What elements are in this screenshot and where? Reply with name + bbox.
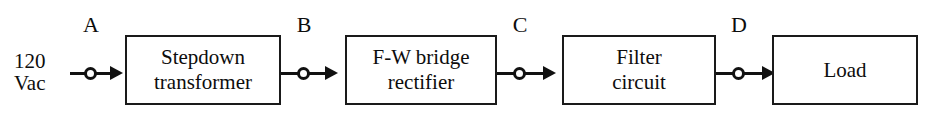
block-load-label: Load xyxy=(817,58,872,83)
arrowhead-into-transformer-icon xyxy=(110,66,123,80)
source-voltage-unit: Vac xyxy=(14,72,76,94)
node-b-label: B xyxy=(291,14,317,36)
block-filter-circuit-label: Filter circuit xyxy=(606,45,672,95)
arrowhead-into-rectifier-icon xyxy=(325,66,338,80)
block-filter-circuit: Filter circuit xyxy=(562,35,716,105)
wire-node-b-to-rectifier xyxy=(308,72,326,75)
block-fw-bridge-rectifier: F-W bridge rectifier xyxy=(345,35,497,105)
block-diagram: 120 Vac A Stepdown transformer B F-W bri… xyxy=(0,0,936,123)
block-fw-bridge-rectifier-label: F-W bridge rectifier xyxy=(366,45,475,95)
wire-node-a-to-transformer xyxy=(95,72,111,75)
block-stepdown-transformer: Stepdown transformer xyxy=(125,35,281,105)
ac-source-label: 120 Vac xyxy=(14,50,76,94)
source-voltage-value: 120 xyxy=(14,50,76,72)
node-d-label: D xyxy=(726,14,752,36)
block-load: Load xyxy=(772,35,918,105)
wire-node-d-to-load xyxy=(743,72,763,75)
node-c-label: C xyxy=(507,14,533,36)
arrowhead-into-filter-icon xyxy=(543,66,556,80)
block-stepdown-transformer-label: Stepdown transformer xyxy=(148,45,258,95)
wire-node-c-to-filter xyxy=(524,72,544,75)
node-a-label: A xyxy=(78,14,104,36)
